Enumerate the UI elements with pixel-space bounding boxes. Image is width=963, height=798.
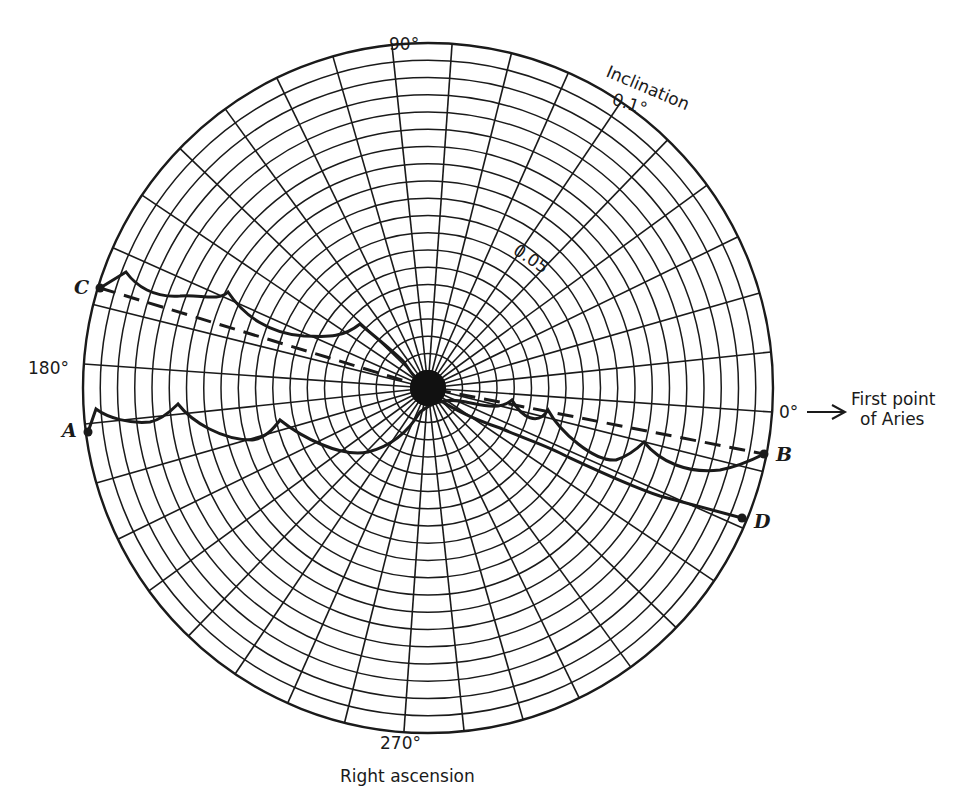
grid-spoke: [85, 388, 428, 424]
arrow-right-icon: [807, 405, 845, 419]
grid-spoke: [113, 248, 428, 388]
grid-spoke: [428, 388, 464, 731]
point-d-marker: [738, 514, 747, 523]
label-of-aries: of Aries: [860, 409, 925, 429]
label-270-deg: 270°: [380, 733, 421, 753]
label-180-deg: 180°: [28, 358, 69, 378]
grid-spoke: [392, 45, 428, 388]
label-0-deg: 0°: [779, 402, 798, 422]
label-right-ascension: Right ascension: [340, 766, 475, 786]
polar-chart: 90° 180° 270° 0° Right ascension First p…: [0, 0, 963, 798]
grid-spoke: [428, 388, 743, 528]
grid-spoke: [235, 388, 428, 674]
point-c-marker: [96, 284, 105, 293]
label-point-c: C: [74, 276, 89, 298]
label-first-point: First point: [851, 389, 936, 409]
grid-spoke: [288, 388, 428, 703]
grid-spoke: [428, 73, 568, 388]
label-90-deg: 90°: [389, 34, 419, 54]
center-blob: [410, 370, 446, 406]
label-point-d: D: [753, 510, 771, 532]
grid-spoke: [428, 352, 771, 388]
point-b-marker: [760, 450, 769, 459]
point-a-marker: [84, 428, 93, 437]
label-point-a: A: [60, 419, 77, 441]
label-point-b: B: [775, 443, 792, 465]
grid-spoke: [142, 195, 428, 388]
